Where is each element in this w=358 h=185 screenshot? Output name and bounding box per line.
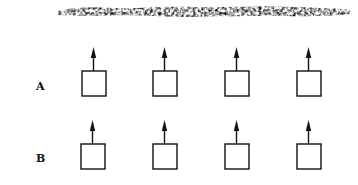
box-with-up-arrow [152, 120, 178, 170]
up-arrow-icon [90, 120, 95, 144]
square-box [153, 71, 177, 96]
up-arrow-icon [162, 120, 167, 144]
box-with-up-arrow [152, 47, 178, 97]
square-box [225, 144, 249, 169]
square-box [81, 144, 105, 169]
row-label-a: A [36, 80, 45, 93]
square-box [225, 71, 249, 96]
up-arrow-icon [162, 47, 167, 71]
up-arrow-icon [234, 47, 239, 71]
box-with-up-arrow [296, 120, 322, 170]
rough-surface-band [56, 4, 352, 19]
box-with-up-arrow [296, 47, 322, 97]
square-box [297, 144, 321, 169]
up-arrow-icon [306, 47, 311, 71]
box-with-up-arrow [80, 120, 106, 170]
box-with-up-arrow [224, 120, 250, 170]
up-arrow-icon [306, 120, 311, 144]
box-with-up-arrow [224, 47, 250, 97]
square-box [153, 144, 177, 169]
up-arrow-icon [91, 47, 96, 71]
square-box [297, 71, 321, 96]
up-arrow-icon [234, 120, 239, 144]
row-label-b: B [36, 152, 45, 165]
square-box [82, 71, 106, 96]
box-with-up-arrow [81, 47, 107, 97]
